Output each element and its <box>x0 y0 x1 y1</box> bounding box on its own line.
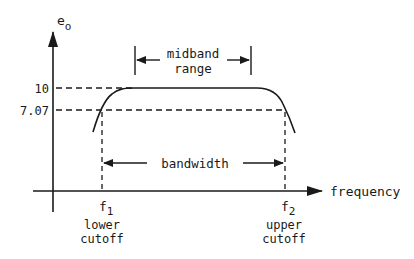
upper-label: upper <box>266 218 302 232</box>
y-tick-7-07: 7.07 <box>20 104 49 118</box>
f2-label: f2 <box>281 199 295 218</box>
y-axis-label: eo <box>57 13 71 33</box>
response-curve <box>93 88 295 133</box>
f1-label: f1 <box>99 199 113 218</box>
bandwidth-label: bandwidth <box>161 156 229 171</box>
midband-label: midband <box>167 46 220 61</box>
y-tick-10: 10 <box>35 82 49 96</box>
x-axis-label: frequency <box>330 184 401 199</box>
lower-label: lower <box>84 218 120 232</box>
range-label: range <box>174 61 212 76</box>
frequency-response-diagram: eo frequency 10 7.07 midband range bandw… <box>0 0 414 259</box>
lower-cutoff-label: cutoff <box>80 232 123 246</box>
upper-cutoff-label: cutoff <box>262 232 305 246</box>
